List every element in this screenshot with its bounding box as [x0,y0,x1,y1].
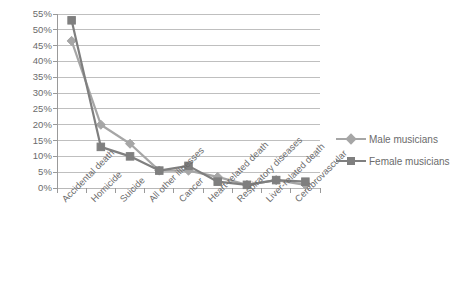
legend-label-female: Female musicians [366,156,450,167]
legend-item-female: Female musicians [336,150,468,172]
legend-key-female-square-icon [336,154,366,168]
series-female [68,17,309,189]
chart-legend: Male musicians Female musicians [336,128,468,172]
legend-label-male: Male musicians [366,134,438,145]
legend-item-male: Male musicians [336,128,468,150]
legend-key-male-diamond-icon [336,132,366,146]
chart-container: 0%5%10%15%20%25%30%35%40%45%50%55% Accid… [0,0,471,300]
